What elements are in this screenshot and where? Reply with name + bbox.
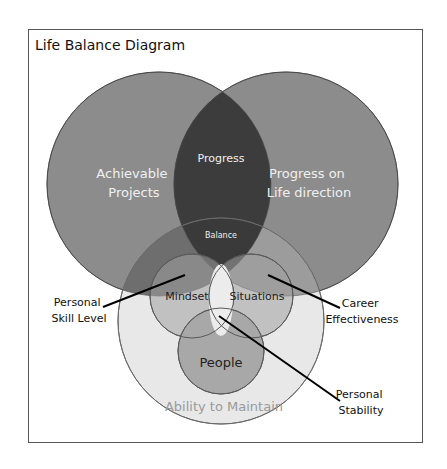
- label-situations: Situations: [230, 290, 285, 303]
- label-mindset: Mindset: [165, 290, 209, 303]
- diagram-title: Life Balance Diagram: [35, 37, 185, 53]
- life-balance-venn: Life Balance Diagram Achievable Projects…: [0, 0, 447, 469]
- callout-personal-stability: Personal Stability: [336, 388, 386, 417]
- label-balance: Balance: [205, 231, 237, 240]
- label-ability-to-maintain: Ability to Maintain: [165, 399, 283, 414]
- callout-career-effectiveness: Career Effectiveness: [325, 297, 398, 326]
- label-people: People: [199, 355, 242, 370]
- label-progress: Progress: [198, 152, 245, 165]
- callout-skill-level: Personal Skill Level: [51, 296, 106, 325]
